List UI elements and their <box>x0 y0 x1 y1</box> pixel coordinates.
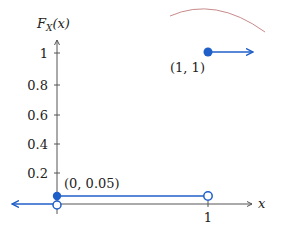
y-tick-label-0.2: 0.2 <box>27 166 48 181</box>
y-tick-label-0.4: 0.4 <box>27 137 48 152</box>
open-point-1-0.05 <box>204 192 212 200</box>
filled-point-0-0.05 <box>53 192 61 200</box>
annotation-1-1: (1, 1) <box>170 60 205 75</box>
y-axis-label: FX(x) <box>36 16 70 33</box>
y-tick-label-1: 1 <box>40 46 48 61</box>
y-tick-label-0.8: 0.8 <box>27 78 48 93</box>
y-tick-label-0.6: 0.6 <box>27 108 48 123</box>
pen-stroke-mark <box>170 9 265 32</box>
open-point-0-0 <box>53 201 61 209</box>
x-axis-label: x <box>258 196 266 211</box>
cdf-chart: 1 0.8 0.6 0.4 0.2 1 FX(x) x (0, 0.05) (1… <box>0 0 302 238</box>
filled-point-1-1 <box>204 48 213 57</box>
x-tick-label-1: 1 <box>204 210 212 225</box>
annotation-0-0.05: (0, 0.05) <box>64 176 120 191</box>
